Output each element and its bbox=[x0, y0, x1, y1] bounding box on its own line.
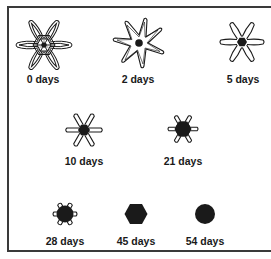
stage-label: 5 days bbox=[227, 73, 260, 85]
stage-label: 0 days bbox=[27, 73, 60, 85]
stage-label: 54 days bbox=[186, 235, 225, 247]
stage-label: 28 days bbox=[46, 235, 85, 247]
stage-label: 10 days bbox=[65, 155, 104, 167]
stage-label: 45 days bbox=[117, 235, 156, 247]
star-hexagon-lattice-icon bbox=[13, 15, 75, 75]
stub-arm-hexagon-icon bbox=[51, 200, 79, 228]
short-arm-star-icon bbox=[166, 113, 200, 145]
filled-hexagon-icon bbox=[124, 203, 148, 225]
stage-label: 21 days bbox=[164, 155, 203, 167]
figure-stage: 0 days 2 days 5 days bbox=[0, 0, 271, 259]
stage-label: 2 days bbox=[122, 73, 155, 85]
filled-circle-icon bbox=[195, 204, 215, 224]
thin-arm-star-icon bbox=[64, 111, 104, 149]
six-arm-star-icon bbox=[218, 19, 266, 65]
star-outline-icon bbox=[111, 15, 167, 71]
